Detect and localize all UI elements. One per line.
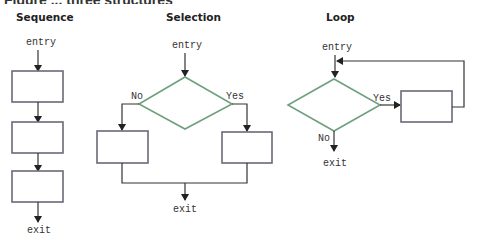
selection-diagram: entry No Yes exit <box>97 40 272 215</box>
sequence-diagram: entry exit <box>12 37 63 236</box>
flowchart-canvas: entry exit entry No Yes exit entry Yes N… <box>0 0 478 240</box>
loop-yes-label: Yes <box>373 93 391 104</box>
loop-exit-label: exit <box>323 158 347 169</box>
selection-process-box-no <box>97 131 148 163</box>
selection-decision-diamond <box>139 77 232 129</box>
sequence-process-box-3 <box>12 171 63 202</box>
sequence-process-box-2 <box>12 122 63 153</box>
loop-decision-diamond <box>288 79 380 131</box>
selection-process-box-yes <box>222 132 272 163</box>
selection-exit-label: exit <box>173 204 197 215</box>
loop-no-label: No <box>318 133 330 144</box>
sequence-process-box-1 <box>12 71 63 102</box>
selection-entry-label: entry <box>172 40 202 51</box>
loop-entry-label: entry <box>322 42 352 53</box>
sequence-exit-label: exit <box>27 225 51 236</box>
selection-no-label: No <box>131 91 143 102</box>
selection-yes-label: Yes <box>226 91 244 102</box>
loop-diagram: entry Yes No exit <box>288 42 464 169</box>
sequence-entry-label: entry <box>26 37 56 48</box>
loop-process-box <box>401 91 452 122</box>
